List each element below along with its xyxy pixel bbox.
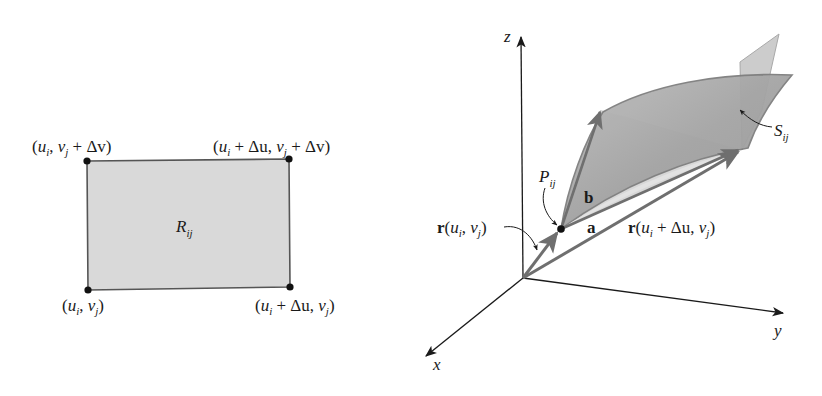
z-axis — [521, 37, 523, 278]
region-rectangle-rij — [87, 159, 290, 290]
corner-point-top-left — [83, 157, 90, 164]
surface-patch-sij — [561, 75, 792, 229]
y-axis-label: y — [772, 321, 782, 340]
y-axis — [523, 278, 783, 313]
corner-label-top-right: (ui + Δu, vj + Δv) — [213, 137, 330, 158]
surface-sij-label: Sij — [774, 121, 789, 143]
point-pij-pointer — [543, 188, 557, 225]
parameter-domain-panel: Rij (ui, vj + Δv) (ui + Δu, vj + Δv) (ui… — [32, 137, 335, 317]
corner-point-bottom-left — [84, 286, 91, 293]
position-vector-r — [523, 233, 557, 278]
vector-b-label: b — [584, 188, 593, 207]
point-pij — [557, 225, 565, 233]
corner-point-bottom-right — [286, 283, 293, 290]
z-axis-label: z — [503, 27, 511, 46]
shifted-vector-label: r(ui + Δu, vj) — [628, 218, 715, 239]
surface-area-diagram: Rij (ui, vj + Δv) (ui + Δu, vj + Δv) (ui… — [0, 0, 822, 396]
corner-label-bottom-right: (ui + Δu, vj) — [255, 296, 335, 317]
x-axis-label: x — [432, 355, 441, 374]
position-vector-label: r(ui, vj) — [437, 218, 487, 239]
position-vector-pointer — [504, 227, 537, 250]
corner-label-top-left: (ui, vj + Δv) — [32, 137, 112, 158]
x-axis — [426, 278, 523, 356]
vector-a-label: a — [587, 218, 596, 237]
point-pij-label: Pij — [538, 167, 556, 189]
corner-label-bottom-left: (ui, vj) — [62, 296, 104, 317]
surface-patch-panel: z y x Pij Sij b a — [426, 27, 792, 374]
